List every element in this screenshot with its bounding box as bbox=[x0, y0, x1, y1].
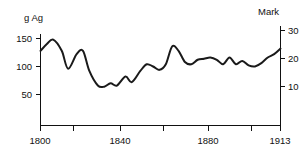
x-tick-label-1840: 1840 bbox=[109, 135, 130, 146]
x-tick-label-1800: 1800 bbox=[29, 135, 50, 146]
right-axis-title: Mark bbox=[258, 6, 279, 17]
left-tick-label-150: 150 bbox=[16, 33, 32, 44]
x-tick-label-1913: 1913 bbox=[269, 135, 290, 146]
right-tick-label-10: 10 bbox=[288, 81, 299, 92]
left-tick-label-100: 100 bbox=[16, 61, 32, 72]
silver-price-chart: g Ag Mark 150 100 50 30 20 10 bbox=[0, 0, 304, 153]
left-axis-title: g Ag bbox=[24, 12, 43, 23]
right-tick-label-20: 20 bbox=[288, 53, 299, 64]
right-tick-label-30: 30 bbox=[288, 25, 299, 36]
chart-canvas: g Ag Mark 150 100 50 30 20 10 bbox=[0, 0, 304, 153]
left-tick-label-50: 50 bbox=[21, 89, 32, 100]
x-tick-label-1880: 1880 bbox=[197, 135, 218, 146]
series-line-g-ag bbox=[41, 39, 281, 87]
